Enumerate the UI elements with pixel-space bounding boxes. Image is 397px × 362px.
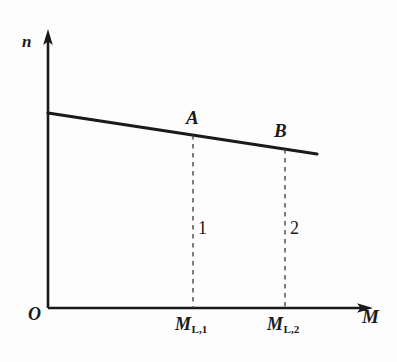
x-axis: [48, 303, 373, 313]
x-tick-2-subscript: L,2: [284, 323, 300, 335]
x-axis-label: M: [362, 307, 379, 326]
origin-label: O: [28, 305, 41, 323]
region-1-label: 1: [198, 219, 207, 237]
plot-area: [0, 0, 397, 362]
figure-container: n M O A B 1 2 ML,1 ML,2: [0, 0, 397, 362]
x-tick-2-base: M: [267, 314, 283, 334]
x-tick-label-2: ML,2: [267, 315, 299, 335]
y-axis: [43, 29, 53, 308]
point-a-label: A: [186, 108, 199, 127]
point-b-label: B: [274, 121, 287, 140]
x-tick-1-base: M: [175, 314, 191, 334]
region-2-label: 2: [290, 219, 299, 237]
x-tick-label-1: ML,1: [175, 315, 207, 335]
y-axis-label: n: [22, 33, 31, 50]
x-tick-1-subscript: L,1: [192, 323, 208, 335]
